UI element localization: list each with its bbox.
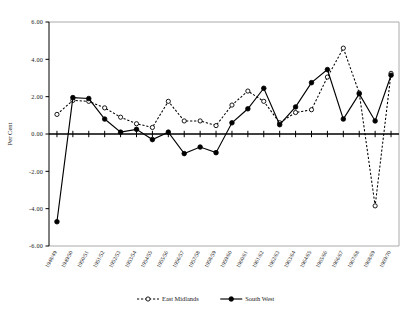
x-axis-tick-label-group: 1967/68 — [346, 249, 360, 268]
data-point-marker — [246, 107, 251, 112]
x-axis-tick-label-group: 1957/58 — [187, 249, 201, 268]
data-point-marker — [214, 150, 219, 155]
data-point-marker — [71, 95, 76, 100]
data-point-marker — [230, 121, 235, 126]
data-point-marker — [214, 124, 218, 128]
y-axis-tick-label: 4.00 — [31, 56, 43, 63]
x-axis-tick-label-group: 1949/50 — [60, 249, 74, 268]
x-axis-tick-label: 1969/70 — [378, 249, 392, 268]
data-point-marker — [261, 86, 266, 91]
chart-container: 6.004.002.000.00-2.00-4.00-6.001948/4919… — [0, 0, 413, 317]
x-axis-tick-label-group: 1952/53 — [108, 249, 122, 268]
x-axis-tick-label-group: 1959/60 — [219, 249, 233, 268]
x-axis-tick-label: 1964/65 — [298, 249, 312, 268]
y-axis-tick-label: 0.00 — [31, 130, 43, 137]
x-axis-tick-label-group: 1958/59 — [203, 249, 217, 268]
x-axis-tick-label: 1955/56 — [155, 249, 169, 268]
data-point-marker — [182, 151, 187, 156]
data-point-marker — [55, 219, 60, 224]
series-line-2 — [57, 70, 391, 222]
x-axis-tick-label: 1957/58 — [187, 249, 201, 268]
data-point-marker — [86, 96, 91, 101]
x-axis-tick-label-group: 1961/62 — [251, 249, 265, 268]
x-axis-tick-label: 1951/52 — [92, 249, 106, 268]
legend-marker-1 — [146, 297, 150, 301]
data-point-marker — [55, 112, 59, 116]
y-axis-tick-label: -4.00 — [29, 205, 43, 212]
x-axis-tick-label: 1959/60 — [219, 249, 233, 268]
x-axis-tick-label-group: 1962/63 — [267, 249, 281, 268]
x-axis-tick-label-group: 1965/66 — [314, 249, 328, 268]
x-axis-tick-label-group: 1964/65 — [298, 249, 312, 268]
x-axis-tick-label: 1968/69 — [362, 249, 376, 268]
data-point-marker — [309, 80, 314, 85]
data-point-marker — [134, 127, 139, 132]
data-point-marker — [118, 130, 123, 135]
x-axis-tick-label-group: 1951/52 — [92, 249, 106, 268]
data-point-marker — [150, 137, 155, 142]
data-point-marker — [166, 99, 170, 103]
x-axis-tick-label-group: 1955/56 — [155, 249, 169, 268]
data-point-marker — [246, 89, 250, 93]
data-point-marker — [102, 117, 107, 122]
legend-marker-2 — [229, 297, 234, 302]
data-point-marker — [134, 122, 138, 126]
x-axis-tick-label-group: 1968/69 — [362, 249, 376, 268]
y-axis-tick-label: -2.00 — [29, 168, 43, 175]
line-chart: 6.004.002.000.00-2.00-4.00-6.001948/4919… — [0, 0, 413, 317]
data-point-marker — [198, 119, 202, 123]
x-axis-tick-label: 1952/53 — [108, 249, 122, 268]
data-point-marker — [293, 105, 298, 110]
data-point-marker — [103, 106, 107, 110]
data-point-marker — [341, 46, 345, 50]
data-point-marker — [166, 130, 171, 135]
x-axis-tick-label: 1949/50 — [60, 249, 74, 268]
data-point-marker — [325, 67, 330, 72]
data-point-marker — [373, 204, 377, 208]
legend-label-2: South West — [245, 295, 274, 302]
x-axis-tick-label: 1967/68 — [346, 249, 360, 268]
x-axis-tick-label: 1948/49 — [44, 249, 58, 268]
data-point-marker — [341, 117, 346, 122]
data-point-marker — [230, 103, 234, 107]
data-point-marker — [373, 119, 378, 124]
data-point-marker — [182, 119, 186, 123]
x-axis-tick-label: 1950/51 — [76, 249, 90, 268]
x-axis-tick-label: 1965/66 — [314, 249, 328, 268]
x-axis-tick-label: 1963/64 — [283, 249, 297, 268]
data-point-marker — [277, 122, 282, 127]
x-axis-tick-label-group: 1966/67 — [330, 249, 344, 268]
x-axis-tick-label: 1953/54 — [123, 249, 137, 268]
y-axis-tick-label: -6.00 — [29, 242, 43, 249]
y-axis-title: Per Cent — [6, 122, 13, 145]
data-point-marker — [357, 92, 362, 97]
y-axis-tick-label: 2.00 — [31, 93, 43, 100]
x-axis-tick-label-group: 1950/51 — [76, 249, 90, 268]
x-axis-tick-label: 1961/62 — [251, 249, 265, 268]
x-axis-tick-label: 1960/61 — [235, 249, 249, 268]
legend-label-1: East Midlands — [162, 295, 199, 302]
y-axis-tick-label: 6.00 — [31, 18, 43, 25]
x-axis-tick-label: 1956/57 — [171, 249, 185, 268]
x-axis-tick-label-group: 1963/64 — [283, 249, 297, 268]
x-axis-tick-label-group: 1969/70 — [378, 249, 392, 268]
x-axis-tick-label-group: 1948/49 — [44, 249, 58, 268]
data-point-marker — [150, 125, 154, 129]
data-point-marker — [309, 108, 313, 112]
data-point-marker — [293, 110, 297, 114]
x-axis-tick-label-group: 1953/54 — [123, 249, 137, 268]
x-axis-tick-label: 1966/67 — [330, 249, 344, 268]
x-axis-tick-label: 1954/55 — [139, 249, 153, 268]
x-axis-tick-label-group: 1960/61 — [235, 249, 249, 268]
x-axis-tick-label-group: 1954/55 — [139, 249, 153, 268]
x-axis-tick-label: 1958/59 — [203, 249, 217, 268]
data-point-marker — [198, 145, 203, 150]
data-point-marker — [118, 115, 122, 119]
data-point-marker — [389, 73, 394, 78]
x-axis-tick-label-group: 1956/57 — [171, 249, 185, 268]
x-axis-tick-label: 1962/63 — [267, 249, 281, 268]
series-line-1 — [57, 48, 391, 206]
data-point-marker — [262, 99, 266, 103]
